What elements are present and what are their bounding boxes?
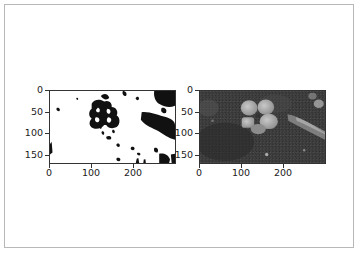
left-xtick-label: 0 <box>37 168 61 178</box>
right-ytick-100 <box>195 133 199 134</box>
right-ytick-label: 100 <box>171 128 193 138</box>
right-ytick-label: 50 <box>171 107 193 117</box>
left-ytick-label: 100 <box>21 128 43 138</box>
binary-mask-image <box>50 91 175 163</box>
left-ytick-100 <box>45 133 49 134</box>
grayscale-photo-image <box>200 91 325 163</box>
right-ytick-150 <box>195 155 199 156</box>
left-ytick-50 <box>45 112 49 113</box>
binary-mask-axes <box>49 90 176 164</box>
left-ytick-label: 50 <box>21 107 43 117</box>
right-ytick-50 <box>195 112 199 113</box>
right-xtick-label: 200 <box>271 168 295 178</box>
left-ytick-0 <box>45 90 49 91</box>
left-ytick-150 <box>45 155 49 156</box>
right-ytick-label: 150 <box>171 150 193 160</box>
right-ytick-label: 0 <box>171 85 193 95</box>
grayscale-photo-axes <box>199 90 326 164</box>
left-ytick-label: 0 <box>21 85 43 95</box>
right-xtick-label: 100 <box>229 168 253 178</box>
right-xtick-label: 0 <box>187 168 211 178</box>
right-ytick-0 <box>195 90 199 91</box>
left-ytick-label: 150 <box>21 150 43 160</box>
left-xtick-label: 200 <box>121 168 145 178</box>
left-xtick-label: 100 <box>79 168 103 178</box>
